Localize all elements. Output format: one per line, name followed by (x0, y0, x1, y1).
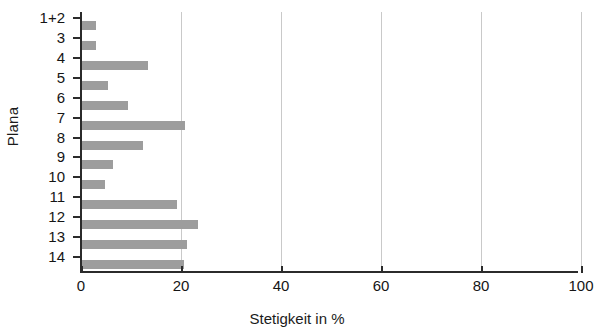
gridline-vertical (381, 12, 382, 271)
gridline-vertical (281, 12, 282, 271)
y-axis-tick (73, 236, 81, 238)
y-axis-tick-label: 6 (0, 90, 65, 105)
y-axis-tick-label: 13 (0, 229, 65, 244)
y-axis-line (80, 12, 82, 272)
y-axis-tick-label: 1+2 (0, 10, 65, 25)
x-axis-tick-label: 40 (251, 277, 311, 294)
x-axis-tick (481, 266, 483, 273)
x-axis-tick (81, 266, 83, 273)
y-axis-tick-label: 5 (0, 70, 65, 85)
bar (81, 121, 185, 130)
x-axis-title: Stetigkeit in % (0, 310, 594, 327)
x-axis-tick (581, 266, 583, 273)
x-axis-line (80, 271, 578, 273)
x-axis-tick (381, 266, 383, 273)
bar (81, 61, 148, 70)
bar (81, 240, 187, 249)
y-axis-tick-label: 3 (0, 30, 65, 45)
y-axis-tick-label: 11 (0, 189, 65, 204)
x-axis-tick-label: 80 (451, 277, 511, 294)
bar (81, 41, 96, 50)
y-axis-tick (73, 137, 81, 139)
x-axis-tick-label: 0 (51, 277, 111, 294)
x-axis-tick-label: 100 (551, 277, 594, 294)
y-axis-tick (73, 196, 81, 198)
bar (81, 220, 198, 229)
bar (81, 180, 105, 189)
y-axis-tick-label: 8 (0, 130, 65, 145)
x-axis-tick-label: 60 (351, 277, 411, 294)
y-axis-tick-label: 14 (0, 249, 65, 264)
y-axis-tick-label: 7 (0, 110, 65, 125)
y-axis-tick (73, 97, 81, 99)
gridline-vertical (181, 12, 182, 271)
y-axis-tick (73, 256, 81, 258)
bar (81, 21, 96, 30)
x-axis-tick-label: 20 (151, 277, 211, 294)
bar (81, 81, 108, 90)
y-axis-tick (73, 37, 81, 39)
y-axis-tick (73, 176, 81, 178)
y-axis-tick (73, 17, 81, 19)
y-axis-tick-label: 4 (0, 50, 65, 65)
y-axis-tick-label: 12 (0, 209, 65, 224)
y-axis-tick-label: 9 (0, 149, 65, 164)
y-axis-tick (73, 216, 81, 218)
y-axis-tick (73, 57, 81, 59)
bar (81, 260, 184, 269)
gridline-vertical (581, 12, 582, 271)
bar (81, 141, 143, 150)
plot-area (81, 12, 581, 271)
y-axis-tick (73, 156, 81, 158)
y-axis-tick-label: 10 (0, 169, 65, 184)
bar (81, 101, 128, 110)
y-axis-tick (73, 77, 81, 79)
y-axis-tick (73, 117, 81, 119)
x-axis-tick (281, 266, 283, 273)
bar (81, 200, 177, 209)
bar-chart: Plana Stetigkeit in % 1+2345678910111213… (0, 0, 594, 336)
bar (81, 160, 113, 169)
x-axis-tick (181, 266, 183, 273)
gridline-vertical (481, 12, 482, 271)
